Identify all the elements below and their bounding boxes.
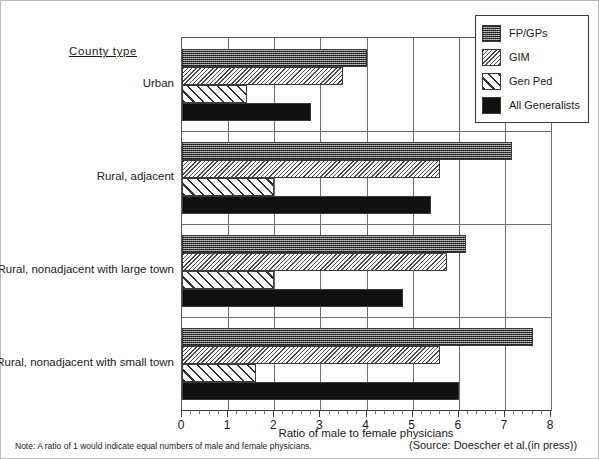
legend-item: FP/GPs (482, 21, 584, 45)
x-tick (273, 410, 274, 417)
legend-swatch-icon (482, 25, 501, 42)
x-tick-minor (402, 410, 403, 414)
x-tick (227, 410, 228, 417)
x-tick (319, 410, 320, 417)
x-tick-minor (246, 410, 247, 414)
x-tick-minor (375, 410, 376, 414)
x-axis-title: Ratio of male to female physicians (181, 427, 551, 439)
bar (182, 364, 256, 382)
bar (182, 346, 440, 364)
x-tick-minor (467, 410, 468, 414)
x-tick-minor (282, 410, 283, 414)
x-tick-minor (190, 410, 191, 414)
x-tick-minor (522, 410, 523, 414)
bar (182, 382, 459, 400)
category-label: Urban (143, 77, 174, 90)
bar (182, 271, 274, 289)
bar-group (182, 317, 551, 410)
bar (182, 85, 247, 103)
bar (182, 289, 403, 307)
x-tick-minor (310, 410, 311, 414)
legend-item: GIM (482, 45, 584, 69)
x-tick-minor (292, 410, 293, 414)
bar (182, 253, 447, 271)
bar (182, 49, 367, 67)
x-tick-minor (218, 410, 219, 414)
x-tick-minor (485, 410, 486, 414)
legend-item: Gen Ped (482, 69, 584, 93)
x-tick-minor (393, 410, 394, 414)
bar (182, 178, 274, 196)
x-tick-minor (301, 410, 302, 414)
legend-swatch-icon (482, 97, 501, 114)
x-tick-minor (532, 410, 533, 414)
bar (182, 196, 431, 214)
chart-source: (Source: Doescher et al.(in press)) (409, 439, 577, 451)
bar (182, 67, 343, 85)
legend-item: All Generalists (482, 93, 584, 117)
bar-group (182, 224, 551, 317)
bar-group (182, 131, 551, 224)
legend-label: FP/GPs (509, 27, 548, 39)
x-tick-minor (338, 410, 339, 414)
x-tick-minor (384, 410, 385, 414)
bar (182, 142, 512, 160)
legend-label: GIM (509, 51, 530, 63)
bar (182, 235, 466, 253)
chart-figure: County type UrbanRural, adjacentRural, n… (0, 0, 599, 459)
x-tick-minor (449, 410, 450, 414)
legend-label: Gen Ped (509, 75, 552, 87)
x-tick-minor (199, 410, 200, 414)
category-label: Rural, nonadjacent with large town (0, 263, 174, 276)
legend-swatch-icon (482, 73, 501, 90)
y-axis-category-labels: UrbanRural, adjacentRural, nonadjacent w… (1, 37, 174, 409)
category-label: Rural, nonadjacent with small town (0, 356, 174, 369)
x-tick-minor (209, 410, 210, 414)
x-tick-minor (495, 410, 496, 414)
x-tick (504, 410, 505, 417)
x-tick (366, 410, 367, 417)
bar (182, 103, 311, 121)
x-tick-minor (541, 410, 542, 414)
chart-note: Note: A ratio of 1 would indicate equal … (15, 441, 312, 451)
legend-label: All Generalists (509, 99, 580, 111)
x-tick (412, 410, 413, 417)
bar (182, 160, 440, 178)
x-tick-minor (264, 410, 265, 414)
x-tick-minor (513, 410, 514, 414)
x-tick-minor (329, 410, 330, 414)
x-tick-minor (255, 410, 256, 414)
x-tick-minor (421, 410, 422, 414)
x-tick-minor (236, 410, 237, 414)
legend: FP/GPsGIMGen PedAll Generalists (475, 15, 589, 123)
x-tick-minor (347, 410, 348, 414)
x-tick (550, 410, 551, 417)
bar (182, 328, 533, 346)
x-tick (181, 410, 182, 417)
category-label: Rural, adjacent (97, 170, 174, 183)
x-tick-minor (439, 410, 440, 414)
x-tick-minor (476, 410, 477, 414)
legend-swatch-icon (482, 49, 501, 66)
x-tick-minor (430, 410, 431, 414)
x-tick (458, 410, 459, 417)
x-tick-minor (356, 410, 357, 414)
